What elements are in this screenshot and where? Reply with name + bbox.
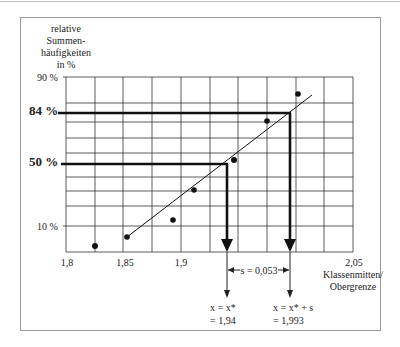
y-axis-title-line4: in % bbox=[57, 59, 76, 70]
x-tick-2-05: 2,05 bbox=[345, 257, 363, 268]
sd-label-line1: x = x* + s bbox=[273, 302, 313, 313]
mean-label-line1: x = x* bbox=[210, 302, 236, 313]
y-axis-title-line2: Summen- bbox=[47, 35, 86, 46]
sd-arrow bbox=[58, 113, 296, 252]
sd-drop-arrowhead bbox=[287, 290, 293, 298]
x-tick-1-9: 1,9 bbox=[175, 257, 188, 268]
sd-label-line2: = 1,993 bbox=[273, 315, 304, 326]
s-label: s = 0,053 bbox=[240, 265, 277, 276]
x-tick-1-8: 1,8 bbox=[61, 257, 74, 268]
y-axis-title-line1: relative bbox=[51, 23, 81, 34]
mean-drop-arrowhead bbox=[224, 290, 230, 298]
x-axis-title-line1: Klassenmitten/ bbox=[323, 269, 383, 280]
x-tick-1-85: 1,85 bbox=[116, 257, 134, 268]
y-tick-84: 84 % bbox=[29, 105, 58, 116]
y-tick-10: 10 % bbox=[37, 221, 58, 232]
fit-line bbox=[127, 95, 312, 237]
y-axis-title-line3: häufigkeiten bbox=[41, 47, 91, 58]
y-tick-90: 90 % bbox=[37, 72, 58, 83]
y-tick-50: 50 % bbox=[29, 156, 58, 167]
x-axis-title-line2: Obergrenze bbox=[330, 281, 376, 292]
mean-label-line2: = 1,94 bbox=[210, 315, 236, 326]
